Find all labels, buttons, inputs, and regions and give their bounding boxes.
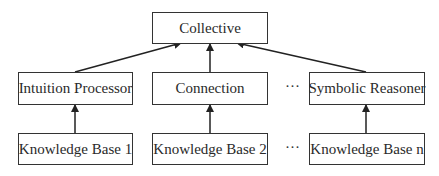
arrow-symbolic-to-collective bbox=[237, 43, 366, 72]
arrow-intuition-to-collective bbox=[75, 43, 181, 72]
node-label: Knowledge Base n bbox=[310, 141, 423, 158]
ellipsis-bottom: ··· bbox=[285, 139, 300, 156]
node-label: Knowledge Base 2 bbox=[153, 141, 266, 158]
node-collective: Collective bbox=[152, 12, 268, 44]
node-label: Connection bbox=[175, 80, 244, 97]
node-intuition-processor: Intuition Processor bbox=[18, 72, 133, 105]
node-knowledge-base-n: Knowledge Base n bbox=[309, 133, 425, 165]
node-label: Collective bbox=[179, 20, 241, 37]
ellipsis-middle: ··· bbox=[285, 78, 300, 95]
node-label: Intuition Processor bbox=[19, 80, 133, 97]
node-label: Knowledge Base 1 bbox=[19, 141, 132, 158]
node-connection: Connection bbox=[152, 72, 268, 105]
node-knowledge-base-1: Knowledge Base 1 bbox=[18, 133, 133, 165]
node-label: Symbolic Reasoner bbox=[308, 80, 425, 97]
node-symbolic-reasoner: Symbolic Reasoner bbox=[309, 72, 425, 105]
node-knowledge-base-2: Knowledge Base 2 bbox=[152, 133, 268, 165]
